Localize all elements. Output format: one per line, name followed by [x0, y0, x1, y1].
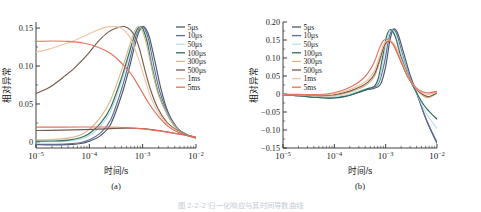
panel-label: (a) [111, 181, 121, 191]
y-tick-label: 0.15 [266, 36, 280, 45]
x-tick-label: 10−4 [82, 150, 98, 161]
chart-a-canvas: 10−510−410−310−200.050.100.155μs10μs50μs… [0, 0, 240, 212]
y-tick-label: −0.10 [261, 126, 280, 135]
y-tick-label: −0.05 [261, 108, 280, 117]
x-tick-label: 10−2 [188, 150, 204, 161]
x-tick-label: 10−5 [28, 150, 44, 161]
chart-panel-b: 10−510−410−310−2−0.15−0.10−0.0500.050.10… [241, 0, 481, 212]
x-tick-label: 10−3 [135, 150, 151, 161]
x-axis-title: 时间/s [104, 165, 129, 176]
x-axis-title: 时间/s [348, 165, 373, 176]
panel-label: (b) [355, 181, 365, 191]
y-axis-title: 相对异常 [248, 67, 259, 103]
y-tick-label: 0.05 [266, 72, 280, 81]
y-tick-label: 0.15 [19, 24, 33, 33]
chart-b-canvas: 10−510−410−310−2−0.15−0.10−0.0500.050.10… [241, 0, 481, 212]
chart-panel-a: 10−510−410−310−200.050.100.155μs10μs50μs… [0, 0, 240, 212]
legend-label: 5ms [188, 83, 201, 92]
y-tick-label: 0.05 [19, 100, 33, 109]
series-curve [36, 27, 196, 142]
y-tick-label: −0.15 [261, 144, 280, 153]
series-curve [36, 27, 196, 142]
y-tick-label: 0.10 [266, 54, 280, 63]
x-tick-label: 10−2 [429, 150, 445, 161]
y-tick-label: 0.20 [266, 18, 280, 27]
y-axis-title: 相对异常 [1, 67, 12, 103]
x-tick-label: 10−3 [378, 150, 394, 161]
series-curve [36, 26, 196, 140]
y-tick-label: 0 [276, 90, 280, 99]
x-tick-label: 10−4 [327, 150, 343, 161]
y-tick-label: 0.10 [19, 62, 33, 71]
figure-caption: 图 2-2-2 归一化响应与其时间导数曲线 [0, 199, 481, 212]
figure-page: 10−510−410−310−200.050.100.155μs10μs50μs… [0, 0, 481, 212]
legend-label: 5ms [304, 83, 317, 92]
y-tick-label: 0 [29, 138, 33, 147]
